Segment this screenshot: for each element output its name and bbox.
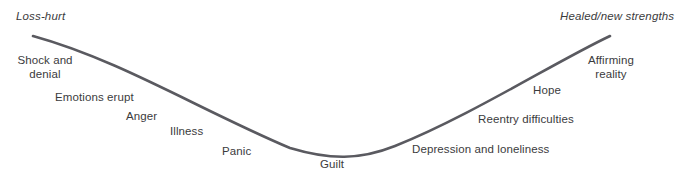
stage-label-affirming-reality: Affirming reality (580, 54, 642, 81)
stage-label-depression-and-loneliness: Depression and loneliness (412, 143, 549, 157)
grief-curve-diagram: Loss-hurt Healed/new strengths Shock and… (0, 0, 686, 181)
stage-label-illness: Illness (170, 125, 203, 139)
stage-label-guilt: Guilt (320, 158, 344, 172)
stage-label-emotions-erupt: Emotions erupt (55, 91, 134, 105)
stage-label-panic: Panic (222, 145, 251, 159)
stage-label-shock-and-denial: Shock and denial (12, 54, 78, 81)
stage-label-hope: Hope (533, 84, 561, 98)
stage-label-reentry-difficulties: Reentry difficulties (478, 113, 574, 127)
endpoint-label-healed-new-strengths: Healed/new strengths (560, 10, 674, 24)
endpoint-label-loss-hurt: Loss-hurt (16, 10, 65, 24)
stage-label-anger: Anger (126, 110, 157, 124)
